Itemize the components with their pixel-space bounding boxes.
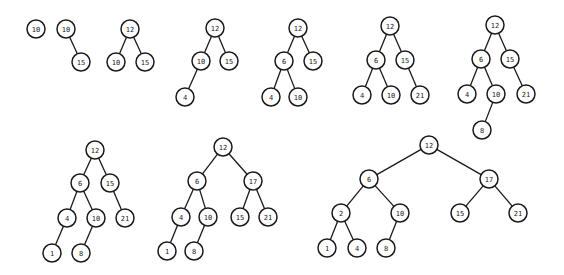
node-label: 4	[360, 92, 364, 100]
node-label: 21	[522, 91, 530, 99]
tree-node: 15	[136, 53, 154, 71]
tree-node: 6	[275, 52, 293, 70]
tree-node: 21	[517, 85, 535, 103]
tree-node: 10	[87, 209, 105, 227]
tree-node: 12	[420, 136, 438, 154]
node-label: 10	[387, 92, 395, 100]
tree-edge	[200, 190, 206, 209]
tree-edge	[437, 149, 481, 174]
node-label: 15	[309, 58, 317, 66]
node-label: 10	[112, 59, 120, 67]
tree-node: 15	[396, 51, 414, 69]
tree-edge	[243, 189, 250, 208]
tree-edge	[84, 191, 93, 210]
tree-node: 12	[121, 20, 139, 38]
tree-node: 8	[72, 244, 90, 262]
tree-node: 17	[244, 172, 262, 190]
node-label: 15	[225, 58, 233, 66]
tree-edge	[394, 34, 402, 52]
tree-edge	[274, 69, 281, 88]
tree-node: 4	[262, 88, 280, 106]
node-label: 10	[92, 215, 100, 223]
tree-edge	[345, 221, 354, 240]
tree-node: 10	[199, 208, 217, 226]
node-label: 21	[121, 215, 129, 223]
tree-edge	[229, 154, 247, 175]
node-label: 15	[77, 59, 85, 67]
tree-edge	[170, 225, 177, 242]
tree-edge	[409, 68, 417, 86]
tree-edge	[375, 186, 394, 207]
tree-edge	[287, 69, 294, 88]
node-label: 1	[165, 248, 169, 256]
tree-edge	[56, 226, 64, 244]
tree-edge	[377, 149, 421, 174]
node-label: 17	[249, 178, 257, 186]
tree-edge	[485, 102, 492, 121]
tree-edge	[365, 68, 372, 86]
tree-node: 10	[192, 52, 210, 70]
tree-edge	[189, 69, 198, 89]
node-label: 15	[401, 57, 409, 65]
tree-edge	[379, 34, 386, 51]
node-label: 4	[183, 94, 187, 102]
tree-step-9: 12617410152118	[158, 138, 277, 260]
tree-node: 8	[377, 239, 395, 257]
tree-step-10: 126172101521148	[318, 136, 527, 257]
tree-node: 12	[486, 16, 504, 34]
tree-node: 15	[304, 52, 322, 70]
tree-node: 1	[318, 239, 336, 257]
tree-edge	[302, 36, 310, 53]
tree-step-2: 1015	[57, 20, 90, 71]
node-label: 21	[514, 210, 522, 218]
tree-edge	[470, 67, 477, 85]
tree-edge	[114, 191, 122, 209]
tree-edge	[134, 37, 142, 54]
tree-node: 10	[107, 53, 125, 71]
node-label: 8	[192, 248, 196, 256]
node-label: 15	[236, 214, 244, 222]
tree-node: 1	[158, 242, 176, 260]
tree-node: 21	[116, 209, 134, 227]
tree-edge	[185, 189, 194, 209]
tree-node: 10	[391, 204, 409, 222]
tree-node: 12	[86, 141, 104, 159]
tree-node: 10	[27, 20, 45, 38]
node-label: 4	[355, 245, 359, 253]
node-label: 12	[219, 144, 227, 152]
node-label: 4	[465, 91, 469, 99]
tree-node: 4	[176, 88, 194, 106]
node-label: 15	[141, 59, 149, 67]
tree-edge	[347, 186, 364, 206]
tree-node: 12	[214, 138, 232, 156]
tree-edge	[485, 67, 493, 85]
node-label: 10	[32, 26, 40, 34]
tree-step-8: 126154102118	[43, 141, 134, 262]
node-label: 10	[294, 94, 302, 102]
node-label: 12	[294, 25, 302, 33]
tree-edge	[202, 154, 217, 174]
node-label: 12	[491, 22, 499, 30]
tree-edge	[499, 33, 507, 51]
tree-node: 8	[473, 121, 491, 139]
tree-diagram-canvas: 1010151210151210154126154101261541021126…	[0, 0, 564, 275]
tree-edge	[514, 67, 523, 86]
tree-node: 4	[348, 239, 366, 257]
node-label: 8	[384, 245, 388, 253]
tree-node: 10	[57, 20, 75, 38]
tree-edge	[120, 37, 127, 53]
tree-node: 6	[71, 174, 89, 192]
node-label: 10	[204, 214, 212, 222]
tree-step-3: 121015	[107, 20, 154, 71]
tree-node: 6	[188, 172, 206, 190]
tree-node: 6	[360, 170, 378, 188]
tree-edge	[99, 158, 107, 175]
tree-node: 12	[206, 19, 224, 37]
tree-edge	[197, 225, 204, 242]
node-label: 12	[91, 147, 99, 155]
tree-node: 4	[58, 209, 76, 227]
node-label: 6	[374, 57, 378, 65]
tree-step-1: 10	[27, 20, 45, 38]
node-label: 15	[506, 56, 514, 64]
node-label: 10	[197, 58, 205, 66]
